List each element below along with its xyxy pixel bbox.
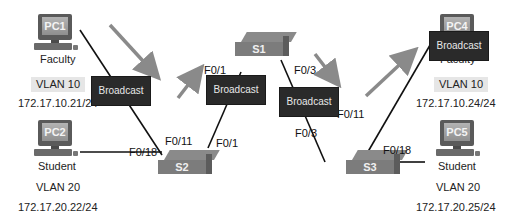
monitor-icon: PC5 [440, 120, 474, 146]
switch-s2-icon[interactable]: S2 [158, 150, 212, 174]
pc5-computer-icon[interactable]: PC5 [436, 120, 482, 158]
pc4-vlan: VLAN 10 [434, 77, 488, 92]
broadcast-frame-1: Broadcast [92, 77, 150, 105]
pc4-ip: 172.17.10.24/24 [416, 97, 496, 110]
monitor-icon: PC2 [38, 120, 72, 146]
broadcast-frame-4: Broadcast [430, 32, 488, 60]
keyboard-icon [34, 149, 72, 156]
broadcast-frame-3: Broadcast [280, 88, 338, 116]
keyboard-icon [436, 149, 474, 156]
mouse-icon [73, 45, 78, 50]
port-s3-f0-11: F0/11 [337, 108, 364, 121]
s1-label: S1 [235, 42, 283, 56]
pc1-role: Faculty [40, 53, 75, 66]
arrow-s1-to-s3 [315, 54, 335, 80]
switch-side [206, 154, 212, 174]
pc2-role: Student [38, 160, 76, 173]
pc1-vlan: VLAN 10 [31, 77, 85, 92]
port-s1-f0-3: F0/3 [294, 64, 316, 77]
network-topology-diagram: PC1 Faculty VLAN 10 172.17.10.21/24 PC2 … [0, 0, 508, 224]
pc5-role: Student [438, 160, 476, 173]
arrow-s2-to-s1 [178, 72, 198, 98]
monitor-icon: PC1 [38, 14, 72, 40]
pc2-ip: 172.17.20.22/24 [18, 201, 98, 214]
pc1-label: PC1 [42, 17, 68, 35]
port-s2-f0-1: F0/1 [216, 137, 238, 150]
pc1-computer-icon[interactable]: PC1 [34, 14, 80, 52]
arrow-pc1-to-s2 [110, 25, 154, 73]
port-s2-f0-18: F0/18 [129, 146, 157, 159]
switch-side [394, 154, 400, 174]
port-s2-f0-11: F0/11 [165, 135, 192, 148]
pc5-vlan: VLAN 20 [436, 181, 480, 194]
port-s3-f0-3: F0/3 [295, 127, 317, 140]
switch-s1-icon[interactable]: S1 [235, 32, 289, 56]
broadcast-frame-2: Broadcast [207, 76, 265, 104]
pc5-ip: 172.17.20.25/24 [416, 201, 496, 214]
s3-label: S3 [346, 160, 394, 174]
pc2-vlan: VLAN 20 [36, 181, 80, 194]
pc2-computer-icon[interactable]: PC2 [34, 120, 80, 158]
keyboard-icon [34, 43, 72, 50]
switch-side [283, 36, 289, 56]
port-s3-f0-18: F0/18 [383, 144, 411, 157]
s2-label: S2 [158, 160, 206, 174]
mouse-icon [475, 151, 480, 156]
pc2-label: PC2 [42, 123, 68, 141]
pc5-label: PC5 [444, 123, 470, 141]
mouse-icon [73, 151, 78, 156]
pc1-ip: 172.17.10.21/24 [18, 97, 98, 110]
